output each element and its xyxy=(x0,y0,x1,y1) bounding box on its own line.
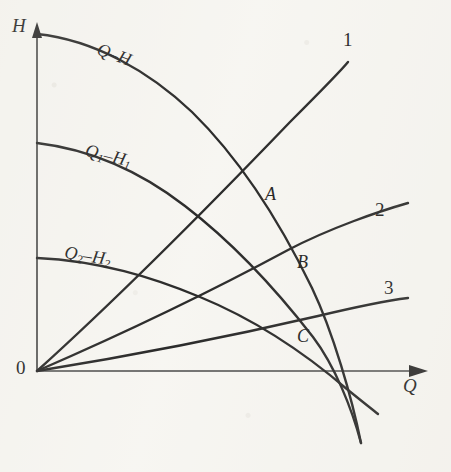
curve-number-3: 3 xyxy=(384,278,394,297)
y-axis xyxy=(32,22,42,371)
curve-number-2: 2 xyxy=(375,200,385,219)
figure-canvas: H Q 0 Q–H Q1–H1 Q2–H2 A B C 1 2 3 xyxy=(0,0,451,472)
pump-curve-plot xyxy=(0,0,451,472)
curve-resistance-1 xyxy=(37,62,348,371)
x-axis-label: Q xyxy=(403,376,417,395)
curve-q2h2 xyxy=(37,258,378,414)
y-axis-label: H xyxy=(12,16,26,35)
curve-q1h1 xyxy=(37,143,361,443)
curve-resistance-3 xyxy=(37,298,408,371)
curve-label-q2h2-h: –H xyxy=(82,245,107,268)
point-label-c: C xyxy=(297,327,309,345)
origin-label: 0 xyxy=(16,358,26,377)
x-axis xyxy=(37,365,428,377)
curve-number-1: 1 xyxy=(343,30,353,49)
curve-resistance-2 xyxy=(37,203,408,371)
point-label-a: A xyxy=(265,185,276,203)
point-label-b: B xyxy=(297,253,308,271)
